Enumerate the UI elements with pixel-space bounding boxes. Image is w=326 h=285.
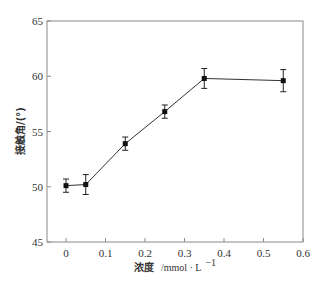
x-tick-label: 0.1 — [99, 247, 113, 259]
x-axis-label: 浓度 /mmol · L −1 — [134, 257, 216, 274]
square-marker — [281, 78, 286, 83]
x-tick-label: 0.3 — [178, 247, 192, 259]
y-tick-label: 60 — [32, 70, 44, 82]
square-marker — [202, 76, 207, 81]
y-axis-label: 接触角/(°) — [14, 107, 26, 155]
y-tick-label: 50 — [32, 181, 44, 193]
x-tick-label: 0 — [63, 247, 69, 259]
x-axis-label-unit: /mmol · L — [161, 262, 202, 273]
square-marker — [64, 183, 69, 188]
data-point — [122, 137, 128, 150]
y-tick-label: 55 — [32, 126, 44, 138]
y-tick-label: 45 — [32, 236, 44, 248]
square-marker — [162, 109, 167, 114]
data-point — [63, 179, 69, 192]
x-tick-label: 0.5 — [257, 247, 271, 259]
contact-angle-chart: 4550556065 00.10.20.30.40.50.6 接触角/(°) 浓… — [0, 0, 326, 285]
square-marker — [83, 182, 88, 187]
y-tick-label: 65 — [32, 15, 44, 27]
y-axis-ticks: 4550556065 — [32, 15, 51, 248]
x-tick-label: 0.2 — [138, 247, 152, 259]
x-axis-ticks: 00.10.20.30.40.50.6 — [63, 238, 310, 259]
x-tick-label: 0.6 — [296, 247, 310, 259]
series-line — [66, 78, 283, 185]
x-tick-label: 0.4 — [217, 247, 231, 259]
data-point — [162, 105, 168, 118]
plot-frame — [47, 21, 303, 242]
x-axis-label-superscript: −1 — [205, 257, 216, 268]
square-marker — [123, 141, 128, 146]
x-axis-label-prefix: 浓度 — [134, 261, 155, 273]
data-point — [83, 175, 89, 195]
data-point — [280, 70, 286, 92]
data-point — [201, 69, 207, 89]
data-series — [63, 69, 286, 195]
